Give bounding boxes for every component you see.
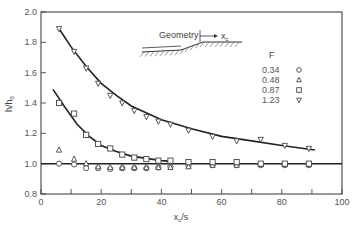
y-tick-label: 1.8 — [24, 37, 37, 47]
triangle-down-marker — [144, 115, 149, 120]
x-tick-label: 60 — [217, 197, 227, 207]
arrow-icon — [214, 34, 218, 38]
square-marker — [120, 152, 125, 157]
square-marker — [108, 146, 113, 151]
square-marker — [306, 161, 311, 166]
triangle-down-marker — [120, 101, 125, 106]
square-marker — [297, 88, 302, 93]
legend: F 0.340.480.871.23 — [262, 50, 301, 105]
triangle-down-marker — [210, 134, 215, 139]
y-tick-label: 0.8 — [24, 189, 37, 199]
x-tick-label: 100 — [334, 197, 349, 207]
circle-marker — [297, 68, 302, 73]
square-marker — [282, 161, 287, 166]
x-axis-label: xc/s — [174, 212, 189, 223]
square-marker — [210, 160, 215, 165]
circle-marker — [72, 162, 77, 167]
chart: 0.81.01.21.41.61.82.0 020406080100 h/h0 … — [0, 0, 361, 229]
x-tick-label: 40 — [156, 197, 166, 207]
y-axis-label: h/h0 — [4, 95, 15, 112]
x-tick-label: 80 — [277, 197, 287, 207]
legend-label: 1.23 — [262, 95, 280, 105]
y-tick-label: 1.2 — [24, 128, 37, 138]
x-tick-label: 20 — [96, 197, 106, 207]
circle-marker — [56, 161, 61, 166]
triangle-down-marker — [156, 119, 161, 124]
square-marker — [132, 155, 137, 160]
triangle-down-marker — [297, 98, 302, 103]
y-tick-label: 2.0 — [24, 7, 37, 17]
square-marker — [186, 160, 191, 165]
y-tick-label: 1.4 — [24, 98, 37, 108]
square-marker — [144, 157, 149, 162]
square-marker — [258, 161, 263, 166]
x-axis: 020406080100 — [38, 189, 349, 207]
legend-title: F — [269, 50, 275, 60]
geometry-inset: Geometry xc — [140, 30, 242, 57]
y-axis: 0.81.01.21.41.61.82.0 — [24, 7, 46, 199]
triangle-down-marker — [132, 108, 137, 113]
square-marker — [96, 141, 101, 146]
legend-label: 0.34 — [262, 65, 280, 75]
x-tick-label: 0 — [38, 197, 43, 207]
square-marker — [156, 158, 161, 163]
fit-curves — [41, 29, 342, 164]
legend-label: 0.48 — [262, 75, 280, 85]
legend-label: 0.87 — [262, 85, 280, 95]
square-marker — [56, 100, 61, 105]
triangle-down-marker — [108, 93, 113, 98]
square-marker — [234, 160, 239, 165]
square-marker — [72, 111, 77, 116]
xc-label: xc — [221, 31, 229, 42]
triangle-down-marker — [234, 139, 239, 144]
square-marker — [168, 158, 173, 163]
triangle-up-marker — [72, 156, 77, 161]
triangle-up-marker — [297, 77, 302, 82]
geometry-label: Geometry — [159, 30, 199, 40]
triangle-down-marker — [168, 122, 173, 127]
square-marker — [84, 132, 89, 137]
triangle-up-marker — [56, 147, 61, 152]
y-tick-label: 1.6 — [24, 68, 37, 78]
circle-marker — [84, 166, 89, 171]
y-tick-label: 1.0 — [24, 159, 37, 169]
triangle-down-marker — [96, 81, 101, 86]
triangle-down-marker — [186, 128, 191, 133]
